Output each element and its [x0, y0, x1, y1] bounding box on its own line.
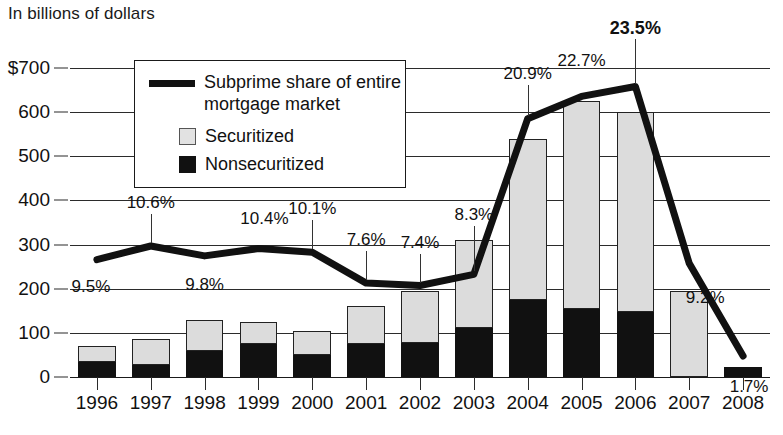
x-tick-mark-2002 — [420, 377, 421, 390]
percent-label-2001: 7.6% — [347, 230, 386, 250]
x-tick-label-1998: 1998 — [183, 392, 225, 414]
y-tick-mark-700 — [54, 68, 68, 69]
x-tick-mark-1996 — [97, 377, 98, 390]
bar-1998[interactable] — [186, 320, 224, 377]
x-tick-label-1996: 1996 — [76, 392, 118, 414]
bar-1997[interactable] — [132, 339, 170, 377]
legend-item-nonsecuritized: Nonsecuritized — [179, 153, 324, 175]
x-tick-label-2000: 2000 — [291, 392, 333, 414]
x-tick-label-2006: 2006 — [614, 392, 656, 414]
legend-nonsecuritized-label: Nonsecuritized — [205, 153, 324, 175]
y-tick-label-0: 0 — [39, 366, 50, 388]
bar-1996[interactable] — [78, 346, 116, 377]
percent-label-2003: 8.3% — [454, 205, 493, 225]
percent-leader-2001 — [366, 251, 367, 280]
bar-2005[interactable] — [563, 101, 601, 377]
x-tick-label-2002: 2002 — [399, 392, 441, 414]
percent-label-1996: 9.5% — [72, 277, 111, 297]
legend-item-line: Subprime share of entire mortgage market — [149, 71, 401, 115]
legend-item-securitized: Securitized — [179, 125, 294, 147]
x-tick-mark-2003 — [474, 377, 475, 390]
percent-label-2002: 7.4% — [401, 233, 440, 253]
x-tick-mark-2006 — [635, 377, 636, 390]
percent-leader-2000 — [312, 220, 313, 249]
percent-label-2006: 23.5% — [610, 18, 661, 39]
x-tick-label-1997: 1997 — [130, 392, 172, 414]
percent-leader-2004 — [528, 85, 529, 116]
y-tick-mark-100 — [54, 332, 68, 333]
x-tick-label-2005: 2005 — [560, 392, 602, 414]
percent-label-2005: 22.7% — [557, 51, 605, 71]
bar-segment-securitized-2004 — [509, 139, 547, 300]
bar-segment-nonsecuritized-1999 — [240, 344, 278, 377]
x-tick-mark-1997 — [151, 377, 152, 390]
bar-segment-nonsecuritized-2003 — [455, 328, 493, 377]
percent-label-1998: 9.8% — [185, 275, 224, 295]
bar-segment-nonsecuritized-2008 — [724, 367, 762, 377]
bar-segment-securitized-1997 — [132, 339, 170, 364]
x-tick-label-2003: 2003 — [453, 392, 495, 414]
x-tick-label-2001: 2001 — [345, 392, 387, 414]
x-tick-label-1999: 1999 — [237, 392, 279, 414]
bar-segment-securitized-2001 — [347, 306, 385, 344]
legend-line-label-1: Subprime share of entire — [204, 72, 401, 92]
y-tick-label-500: 500 — [18, 145, 50, 167]
bar-segment-nonsecuritized-2006 — [617, 312, 655, 377]
bar-1999[interactable] — [240, 322, 278, 377]
bar-segment-securitized-2005 — [563, 101, 601, 308]
securitized-swatch-icon — [179, 128, 196, 145]
bar-segment-securitized-1998 — [186, 320, 224, 351]
chart-units-title: In billions of dollars — [8, 4, 155, 24]
percent-label-1997: 10.6% — [127, 193, 175, 213]
bar-segment-securitized-1996 — [78, 346, 116, 361]
y-tick-mark-600 — [54, 112, 68, 113]
y-tick-label-200: 200 — [18, 278, 50, 300]
bar-segment-nonsecuritized-2002 — [401, 343, 439, 377]
bar-segment-nonsecuritized-2000 — [293, 355, 331, 377]
x-tick-mark-2001 — [366, 377, 367, 390]
bar-2001[interactable] — [347, 306, 385, 377]
percent-label-2008: 1.7% — [730, 377, 769, 397]
y-tick-label-700: $700 — [8, 57, 50, 79]
y-tick-label-100: 100 — [18, 322, 50, 344]
bar-2008[interactable] — [724, 367, 762, 377]
legend-line-label-2: mortgage market — [204, 94, 340, 114]
x-tick-mark-2005 — [582, 377, 583, 390]
percent-label-2007: 9.2% — [686, 288, 725, 308]
bar-segment-nonsecuritized-2004 — [509, 300, 547, 377]
y-tick-mark-300 — [54, 244, 68, 245]
y-tick-mark-0 — [54, 377, 68, 378]
percent-leader-2003 — [474, 226, 475, 271]
bar-segment-nonsecuritized-1997 — [132, 365, 170, 377]
y-tick-label-400: 400 — [18, 189, 50, 211]
bar-segment-nonsecuritized-1996 — [78, 362, 116, 377]
y-tick-mark-500 — [54, 156, 68, 157]
bar-segment-securitized-1999 — [240, 322, 278, 344]
nonsecuritized-swatch-icon — [179, 156, 196, 173]
bar-segment-nonsecuritized-2001 — [347, 344, 385, 377]
y-tick-label-600: 600 — [18, 101, 50, 123]
x-tick-label-2004: 2004 — [507, 392, 549, 414]
bar-segment-securitized-2000 — [293, 331, 331, 355]
line-swatch-icon — [149, 80, 195, 87]
percent-leader-1997 — [151, 214, 152, 243]
bar-segment-nonsecuritized-2005 — [563, 309, 601, 377]
bar-2004[interactable] — [509, 139, 547, 377]
bar-2000[interactable] — [293, 331, 331, 377]
x-tick-mark-2007 — [689, 377, 690, 390]
percent-leader-2006 — [635, 39, 636, 84]
legend-securitized-label: Securitized — [205, 125, 294, 147]
x-tick-label-2007: 2007 — [668, 392, 710, 414]
y-tick-mark-400 — [54, 200, 68, 201]
percent-label-1999: 10.4% — [240, 209, 288, 229]
x-tick-mark-1999 — [258, 377, 259, 390]
x-tick-mark-2004 — [528, 377, 529, 390]
chart-legend: Subprime share of entire mortgage market… — [134, 60, 406, 188]
bar-2002[interactable] — [401, 291, 439, 377]
chart-root: In billions of dollars $7006005004003002… — [0, 0, 783, 435]
percent-label-2000: 10.1% — [288, 199, 336, 219]
x-tick-mark-2000 — [312, 377, 313, 390]
bar-2006[interactable] — [617, 112, 655, 377]
y-tick-label-300: 300 — [18, 234, 50, 256]
y-tick-mark-200 — [54, 288, 68, 289]
